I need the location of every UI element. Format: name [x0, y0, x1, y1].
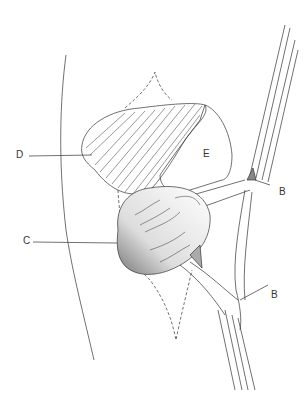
label-D: D	[16, 149, 23, 160]
vessel-right-2	[244, 192, 252, 300]
muscle-D-striations	[86, 104, 202, 194]
dashed-outline-top	[125, 72, 172, 108]
illustration	[0, 0, 307, 397]
body-outline	[61, 55, 94, 360]
label-B-upper: B	[279, 186, 286, 197]
leader-B1	[255, 180, 270, 185]
cord-lower	[180, 262, 238, 315]
instrument-shaft	[250, 25, 298, 182]
lower-instrument	[218, 310, 255, 390]
label-B-lower: B	[271, 289, 278, 300]
label-C: C	[23, 235, 30, 246]
vessel-right	[235, 190, 245, 330]
label-E: E	[203, 148, 210, 159]
region-E	[160, 105, 232, 192]
leader-C	[33, 242, 117, 243]
